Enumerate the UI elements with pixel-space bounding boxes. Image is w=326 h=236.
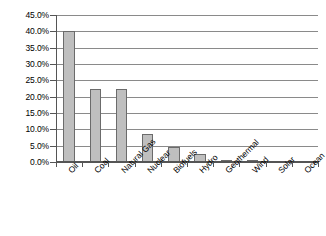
x-tick-mark: [292, 162, 293, 167]
y-tick-mark: [50, 48, 56, 49]
gridline: [56, 31, 318, 32]
x-tick-mark: [56, 162, 57, 167]
y-tick-mark: [50, 97, 56, 98]
x-tick-mark: [108, 162, 109, 167]
y-tick-mark: [50, 146, 56, 147]
y-tick-label: 20.0%: [25, 92, 49, 101]
y-tick-label: 40.0%: [25, 27, 49, 36]
y-tick-label: 35.0%: [25, 43, 49, 52]
y-axis-line: [56, 15, 57, 163]
y-tick-label: 10.0%: [25, 125, 49, 134]
y-tick-label: 25.0%: [25, 76, 49, 85]
gridline: [56, 64, 318, 65]
x-tick-mark: [82, 162, 83, 167]
x-tick-mark: [266, 162, 267, 167]
y-tick-mark: [50, 64, 56, 65]
gridline: [56, 80, 318, 81]
x-tick-mark: [239, 162, 240, 167]
x-tick-mark: [318, 162, 319, 167]
y-tick-mark: [50, 80, 56, 81]
y-tick-label: 5.0%: [30, 141, 49, 150]
y-tick-label: 45.0%: [25, 11, 49, 20]
y-tick-label: 0.0%: [30, 158, 49, 167]
x-tick-mark: [187, 162, 188, 167]
y-tick-label: 30.0%: [25, 60, 49, 69]
plot-area: [56, 15, 318, 162]
y-axis-tick-labels: 0.0%5.0%10.0%15.0%20.0%25.0%30.0%35.0%40…: [0, 0, 52, 236]
y-tick-mark: [50, 113, 56, 114]
y-tick-mark: [50, 15, 56, 16]
bar-oil[interactable]: [63, 31, 75, 162]
x-tick-mark: [135, 162, 136, 167]
y-tick-mark: [50, 129, 56, 130]
bar-natural-gas[interactable]: [116, 89, 128, 163]
gridline: [56, 48, 318, 49]
bar-coal[interactable]: [90, 89, 102, 163]
y-tick-label: 15.0%: [25, 109, 49, 118]
y-tick-mark: [50, 31, 56, 32]
x-tick-mark: [161, 162, 162, 167]
x-tick-mark: [213, 162, 214, 167]
gridline: [56, 15, 318, 16]
